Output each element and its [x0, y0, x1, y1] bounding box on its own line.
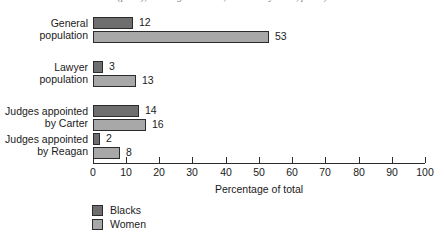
category-label-line1: General	[51, 17, 88, 29]
category-label: Lawyer population	[0, 61, 88, 85]
category-label: Judges appointed by Carter	[0, 105, 88, 129]
legend-label-blacks: Blacks	[110, 204, 141, 216]
bar-value-blacks: 12	[139, 16, 151, 29]
x-axis-tick	[392, 157, 393, 163]
bar-women[interactable]	[93, 31, 269, 43]
bar-value-blacks: 3	[109, 60, 115, 73]
x-axis-line	[93, 163, 425, 164]
category-label-line2: by Carter	[0, 117, 88, 129]
x-axis-tick	[192, 157, 193, 163]
bar-women[interactable]	[93, 75, 136, 87]
category-label-line1: Lawyer	[54, 61, 88, 73]
bar-value-women: 16	[152, 118, 164, 131]
category-label-line1: Judges appointed	[5, 133, 88, 145]
bar-blacks[interactable]	[93, 17, 133, 29]
bar-blacks[interactable]	[93, 133, 100, 145]
category-label-line2: population	[0, 73, 88, 85]
bar-women[interactable]	[93, 119, 146, 131]
category-label-line1: Judges appointed	[5, 105, 88, 117]
bar-value-women: 13	[142, 74, 154, 87]
x-axis-tick	[359, 157, 360, 163]
category-label: General population	[0, 17, 88, 41]
bar-chart: General population 12 53 Lawyer populati…	[0, 0, 445, 236]
legend-label-women: Women	[110, 218, 146, 230]
x-axis-tick	[259, 157, 260, 163]
x-axis-tick	[325, 157, 326, 163]
bar-value-women: 53	[275, 30, 287, 43]
legend-item-women[interactable]: Women	[92, 217, 146, 231]
bar-blacks[interactable]	[93, 61, 103, 73]
bar-blacks[interactable]	[93, 105, 139, 117]
category-label: Judges appointed by Reagan	[0, 133, 88, 157]
legend-swatch-blacks	[92, 205, 103, 216]
x-axis-tick	[159, 157, 160, 163]
x-axis-tick	[292, 157, 293, 163]
bar-value-blacks: 14	[145, 104, 157, 117]
bar-value-blacks: 2	[106, 132, 112, 145]
legend-swatch-women	[92, 219, 103, 230]
x-axis-tick	[93, 157, 94, 163]
x-axis-tick-label: 100	[405, 166, 445, 178]
x-axis-tick	[425, 157, 426, 163]
legend-item-blacks[interactable]: Blacks	[92, 203, 146, 217]
x-axis-tick	[226, 157, 227, 163]
chart-legend: Blacks Women	[92, 203, 146, 231]
x-axis-tick	[126, 157, 127, 163]
category-label-line2: population	[0, 29, 88, 41]
category-label-line2: by Reagan	[0, 145, 88, 157]
bar-women[interactable]	[93, 147, 120, 159]
x-axis-title: Percentage of total	[93, 183, 425, 195]
